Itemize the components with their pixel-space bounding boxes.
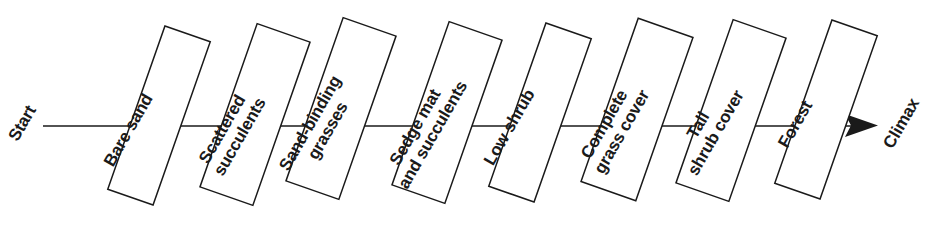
stage-group-1: Bare sand [100, 26, 210, 205]
succession-diagram: Bare sand Scattered succulents Sand-bind… [0, 0, 939, 228]
climax-label: Climax [879, 94, 923, 151]
start-label: Start [5, 102, 41, 145]
stage-box-1[interactable] [108, 26, 210, 205]
stage-group-6: Complete grass cover [574, 18, 693, 200]
stage-box-5[interactable] [489, 23, 591, 202]
succession-svg: Bare sand Scattered succulents Sand-bind… [0, 0, 939, 228]
stage-group-4: Sedge mat and succulents [378, 22, 502, 204]
stage-group-8: Forest [774, 20, 877, 199]
stage-box-8[interactable] [775, 20, 877, 199]
